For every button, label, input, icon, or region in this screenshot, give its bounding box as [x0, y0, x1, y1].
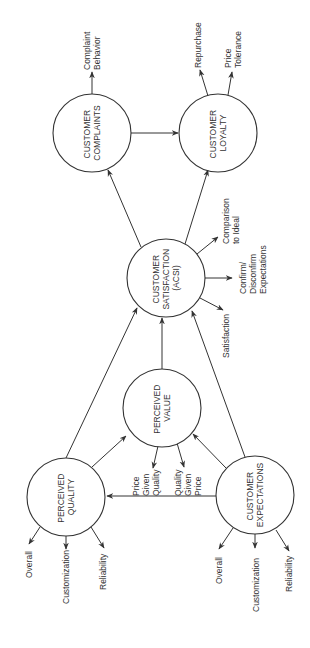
arrow-value-price-given-quality — [153, 446, 158, 468]
node-label: VALUE — [162, 394, 172, 422]
node-customer-complaints: CUSTOMER COMPLAINTS — [53, 94, 131, 172]
svg-text:CUSTOMER LOYALTY: CUSTOMER LOYALTY — [208, 108, 228, 159]
arrow-quality-reliability — [91, 527, 104, 548]
node-label: QUALITY — [66, 478, 76, 515]
node-customer-satisfaction: CUSTOMER SATISFACTION (ACSI) — [127, 239, 205, 317]
edge-expectations-to-value — [193, 434, 226, 468]
node-label: PERCEIVED — [152, 385, 162, 434]
label-comparison-2: to Ideal — [231, 216, 241, 244]
label-expectations-customization: Customization — [251, 558, 261, 612]
acsi-diagram: PERCEIVED QUALITY PERCEIVED VALUE CUSTOM… — [0, 0, 310, 648]
label-confirm-3: Expectations — [258, 245, 268, 294]
arrow-quality-overall — [29, 527, 40, 544]
label-confirm-1: Confirm/ — [238, 261, 248, 294]
svg-text:PERCEIVED QUALITY: PERCEIVED QUALITY — [56, 471, 76, 523]
edge-satisfaction-to-complaints — [108, 170, 141, 247]
arrow-loyalty-repurchase — [200, 70, 208, 96]
node-label: CUSTOMER — [245, 472, 255, 521]
arrow-satisfaction-comparison — [197, 237, 218, 254]
edge-quality-to-value — [92, 436, 126, 467]
label-price-tolerance-2: Tolerance — [233, 31, 243, 68]
node-label: PERCEIVED — [56, 474, 66, 523]
edge-expectations-to-satisfaction — [192, 311, 245, 457]
label-expectations-overall: Overall — [214, 557, 224, 584]
label-quality-customization: Customization — [61, 550, 71, 604]
label-complaint-2: Behavior — [92, 36, 102, 70]
node-label: CUSTOMER — [151, 255, 161, 304]
node-customer-expectations: CUSTOMER EXPECTATIONS — [216, 456, 294, 534]
node-label: CUSTOMER — [82, 110, 92, 159]
label-complaint-1: Complaint — [82, 31, 92, 70]
node-label: LOYALTY — [218, 114, 228, 151]
arrow-loyalty-price-tolerance — [228, 72, 232, 95]
arrow-value-quality-given-price — [177, 443, 184, 467]
node-perceived-value: PERCEIVED VALUE — [123, 369, 201, 447]
label-qgp-3: Price — [193, 476, 203, 496]
node-customer-loyalty: CUSTOMER LOYALTY — [179, 94, 257, 172]
label-satisfaction: Satisfaction — [221, 314, 231, 358]
node-label: (ACSI) — [171, 265, 181, 291]
arrow-expectations-overall — [219, 528, 233, 549]
node-label: CUSTOMER — [208, 110, 218, 159]
arrow-expectations-reliability — [276, 530, 289, 551]
label-price-tolerance-1: Price — [223, 48, 233, 68]
node-label: SATISFACTION — [161, 249, 171, 310]
node-label: COMPLAINTS — [92, 105, 102, 161]
node-perceived-quality: PERCEIVED QUALITY — [27, 458, 105, 536]
label-repurchase: Repurchase — [193, 22, 203, 68]
label-confirm-2: Disconfirm — [248, 254, 258, 294]
edge-quality-to-satisfaction — [66, 308, 137, 458]
label-pgq-1: Price — [131, 476, 141, 496]
label-expectations-reliability: Reliability — [284, 555, 294, 592]
label-pgq-3: Quality — [151, 469, 161, 496]
svg-text:CUSTOMER EXPECTATIONS: CUSTOMER EXPECTATIONS — [245, 462, 265, 527]
label-comparison-1: Comparison — [221, 198, 231, 244]
label-quality-overall: Overall — [24, 551, 34, 578]
label-qgp-2: Given — [183, 474, 193, 496]
label-qgp-1: Quality — [173, 469, 183, 496]
svg-text:CUSTOMER COMPLAINTS: CUSTOMER COMPLAINTS — [82, 105, 102, 161]
arrow-satisfaction-satisfaction — [200, 298, 223, 310]
edge-satisfaction-to-loyalty — [185, 170, 208, 244]
label-pgq-2: Given — [141, 474, 151, 496]
node-label: EXPECTATIONS — [255, 462, 265, 527]
label-quality-reliability: Reliability — [98, 553, 108, 590]
